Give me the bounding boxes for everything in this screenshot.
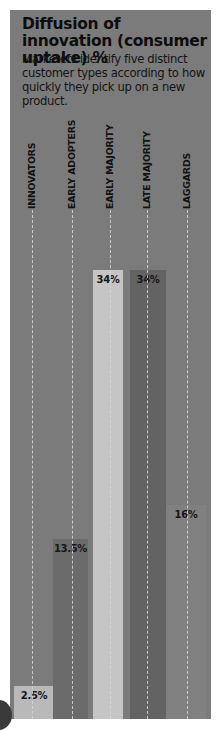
category-label-laggards-wrap: LAGGARDS xyxy=(182,10,194,209)
bar-early-adopters: 13.5% xyxy=(53,539,88,719)
bar-late-majority: 34% xyxy=(130,270,166,719)
category-label: EARLY MAJORITY xyxy=(105,124,115,209)
category-label: LAGGARDS xyxy=(182,153,192,209)
bar-laggards: 16% xyxy=(166,505,206,719)
category-label: LATE MAJORITY xyxy=(142,131,152,209)
bar-value-label: 34% xyxy=(130,274,166,285)
bar-value-label: 2.5% xyxy=(14,690,54,701)
category-label-early-majority-wrap: EARLY MAJORITY xyxy=(105,10,117,209)
bar-early-majority: 34% xyxy=(93,270,123,719)
chart-panel: Diffusion of innovation (consumer uptake… xyxy=(10,10,211,719)
bar-innovators: 2.5% xyxy=(14,686,54,719)
category-label: INNOVATORS xyxy=(27,143,37,209)
guide-line-early-majority xyxy=(110,210,111,719)
category-label: EARLY ADOPTERS xyxy=(67,120,77,209)
guide-line-late-majority xyxy=(147,210,148,719)
bar-value-label: 16% xyxy=(166,509,206,520)
bar-value-label: 34% xyxy=(93,274,123,285)
guide-line-laggards xyxy=(187,210,188,719)
category-label-early-adopters-wrap: EARLY ADOPTERS xyxy=(67,10,79,209)
bar-value-label: 13.5% xyxy=(53,543,88,554)
category-label-innovators-wrap: INNOVATORS xyxy=(27,10,39,209)
category-label-late-majority-wrap: LATE MAJORITY xyxy=(142,10,154,209)
guide-line-early-adopters xyxy=(72,210,73,719)
guide-line-innovators xyxy=(32,210,33,719)
